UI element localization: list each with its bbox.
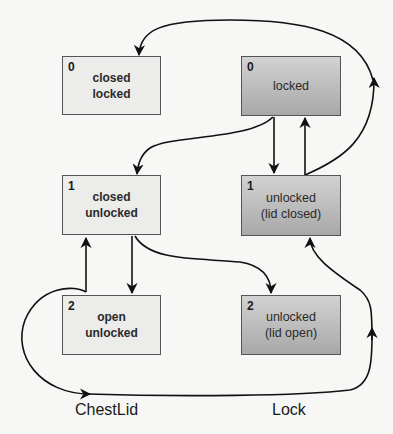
state-label: unlocked (lid open)	[242, 309, 340, 341]
machine-label-lock: Lock	[272, 401, 306, 419]
machine-label-chestlid: ChestLid	[75, 401, 138, 419]
state-index: 0	[247, 60, 254, 74]
state-label: closed locked	[63, 70, 160, 102]
state-lock-2: 2 unlocked (lid open)	[241, 295, 341, 355]
state-machine-diagram: 0 closed locked 1 closed unlocked 2 open…	[0, 0, 393, 434]
state-chestlid-0: 0 closed locked	[62, 56, 161, 115]
state-label: open unlocked	[63, 309, 160, 341]
state-lock-1: 1 unlocked (lid closed)	[241, 175, 341, 236]
state-label: unlocked (lid closed)	[242, 190, 340, 222]
arrow-chestlid1-to-lock2	[135, 236, 271, 293]
state-chestlid-2: 2 open unlocked	[62, 295, 161, 355]
state-label: locked	[242, 78, 340, 94]
state-chestlid-1: 1 closed unlocked	[62, 175, 161, 235]
state-lock-0: 0 locked	[241, 56, 341, 116]
arrow-lock0-to-chestlid1	[137, 117, 273, 174]
state-label: closed unlocked	[63, 189, 160, 221]
